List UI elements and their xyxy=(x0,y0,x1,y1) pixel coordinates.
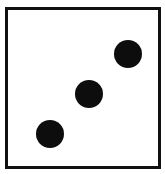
pip-top-right xyxy=(114,40,142,68)
die-face-three xyxy=(5,7,161,169)
pip-center xyxy=(75,80,103,108)
pip-bottom-left xyxy=(36,120,64,148)
